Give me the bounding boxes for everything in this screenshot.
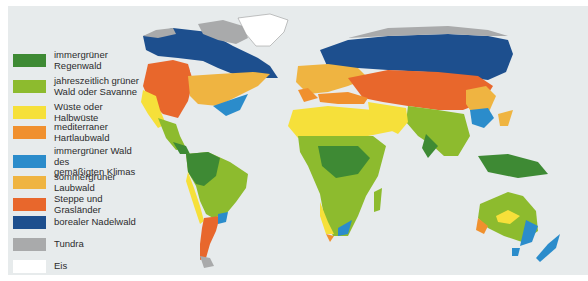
legend-item-steppe: Steppe und Grasländer	[13, 194, 143, 215]
legend-swatch	[13, 238, 46, 251]
legend-item-tundra: Tundra	[13, 238, 84, 251]
legend-swatch	[13, 80, 46, 93]
legend-swatch	[13, 126, 46, 139]
legend-item-savanna: jahreszeitlich grünerWald oder Savanne	[13, 76, 139, 97]
map-panel: immergrünerRegenwald jahreszeitlich grün…	[8, 6, 588, 275]
legend-swatch	[13, 198, 46, 211]
legend-swatch	[13, 260, 46, 273]
legend-item-desert: Wüste oder Halbwüste	[13, 102, 143, 123]
legend-swatch	[13, 216, 46, 229]
legend-label: Tundra	[54, 239, 84, 250]
north-america	[141, 14, 288, 154]
legend-item-ice: Eis	[13, 260, 67, 273]
legend-label: Steppe und Grasländer	[54, 194, 143, 215]
legend-label: Eis	[54, 261, 67, 272]
legend-item-boreal: borealer Nadelwald	[13, 216, 136, 229]
australia	[476, 192, 560, 262]
legend-label: immergrünerRegenwald	[54, 50, 108, 71]
legend-label: mediterranerHartlaubwald	[54, 122, 109, 143]
legend-swatch	[13, 106, 46, 119]
legend-label: sommergrüner Laubwald	[54, 172, 143, 193]
legend-item-mediterranean: mediterranerHartlaubwald	[13, 122, 109, 143]
legend-item-rainforest: immergrünerRegenwald	[13, 50, 108, 71]
africa	[288, 102, 408, 242]
legend-label: borealer Nadelwald	[54, 217, 136, 228]
south-america	[186, 152, 248, 268]
legend-item-deciduous: sommergrüner Laubwald	[13, 172, 143, 193]
legend-swatch	[13, 54, 46, 67]
legend-swatch	[13, 176, 46, 189]
legend-swatch	[13, 155, 46, 168]
legend-label: jahreszeitlich grünerWald oder Savanne	[54, 76, 139, 97]
legend-label: Wüste oder Halbwüste	[54, 102, 143, 123]
